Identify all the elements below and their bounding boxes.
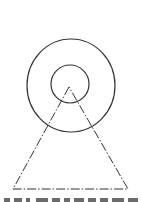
caption-glyph-fragment xyxy=(100,198,108,202)
caption-glyph-fragment xyxy=(26,198,30,202)
figure-caption-cropped xyxy=(0,193,142,202)
caption-glyph-fragment xyxy=(36,198,48,202)
caption-glyph-fragment xyxy=(52,198,60,202)
geometry-diagram xyxy=(0,0,142,202)
caption-glyph-fragment xyxy=(64,198,70,202)
caption-glyph-fragment xyxy=(4,198,10,202)
caption-glyph-fragment xyxy=(14,198,22,202)
inner-circle xyxy=(51,65,89,103)
caption-glyph-fragment xyxy=(74,198,84,202)
caption-glyph-fragment xyxy=(88,198,96,202)
caption-glyph-fragment xyxy=(128,198,138,202)
caption-glyph-fragment xyxy=(112,198,124,202)
outer-circle xyxy=(27,39,115,132)
